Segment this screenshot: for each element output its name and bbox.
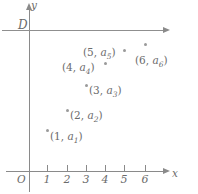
x-tick-mark [67, 165, 68, 172]
data-point-4 [104, 62, 107, 65]
label-3-open: (3, [89, 84, 106, 96]
label-1-close: ) [79, 130, 83, 142]
data-point-1 [46, 129, 49, 132]
label-5-close: ) [112, 46, 116, 58]
x-axis-arrowhead-icon [163, 168, 170, 174]
data-point-3 [85, 84, 88, 87]
y-axis-line [29, 6, 30, 192]
x-tick-label-1: 1 [40, 174, 54, 185]
line-d-label: D [18, 19, 28, 31]
label-2-close: ) [99, 109, 103, 121]
data-point-label-3: (3, a3) [89, 85, 122, 99]
y-axis-label: y [31, 0, 37, 11]
label-4-close: ) [91, 61, 95, 73]
label-3-close: ) [118, 84, 122, 96]
label-6-open: (6, [135, 54, 152, 66]
label-2-open: (2, [70, 109, 87, 121]
scatter-plot-figure: D O x y 1 2 3 4 5 6 (1, a1) (2, a2) (3, … [0, 0, 198, 194]
origin-label: O [17, 174, 26, 185]
data-point-label-5: (5, a5) [83, 47, 116, 61]
data-point-2 [66, 109, 69, 112]
line-d-arrowhead-icon [163, 27, 170, 33]
x-tick-mark [145, 165, 146, 172]
x-tick-mark [47, 165, 48, 172]
x-tick-label-3: 3 [79, 174, 93, 185]
label-6-close: ) [164, 54, 168, 66]
label-4-open: (4, [62, 61, 79, 73]
data-point-label-4: (4, a4) [62, 62, 95, 76]
data-point-label-1: (1, a1) [50, 131, 83, 145]
data-point-label-2: (2, a2) [70, 110, 103, 124]
x-tick-mark [105, 165, 106, 172]
data-point-5 [123, 49, 126, 52]
x-tick-label-4: 4 [98, 174, 112, 185]
label-5-open: (5, [83, 46, 100, 58]
data-point-label-6: (6, a6) [135, 55, 168, 69]
label-1-open: (1, [50, 130, 67, 142]
x-tick-label-2: 2 [60, 174, 74, 185]
x-tick-label-6: 6 [138, 174, 152, 185]
x-tick-label-5: 5 [117, 174, 131, 185]
x-tick-mark [124, 165, 125, 172]
x-axis-label: x [172, 168, 178, 179]
data-point-6 [144, 43, 147, 46]
x-tick-mark [86, 165, 87, 172]
